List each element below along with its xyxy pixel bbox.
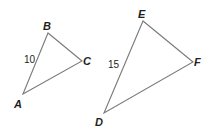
vertex-label-b: B bbox=[43, 20, 51, 32]
vertex-label-f: F bbox=[194, 56, 201, 68]
side-length-de: 15 bbox=[108, 59, 120, 70]
vertex-label-d: D bbox=[95, 116, 103, 128]
similar-triangles-diagram: A B C 10 D E F 15 bbox=[0, 0, 212, 132]
vertex-label-e: E bbox=[138, 8, 146, 20]
side-length-ab: 10 bbox=[24, 54, 36, 65]
vertex-label-a: A bbox=[13, 98, 22, 110]
vertex-label-c: C bbox=[83, 55, 92, 67]
